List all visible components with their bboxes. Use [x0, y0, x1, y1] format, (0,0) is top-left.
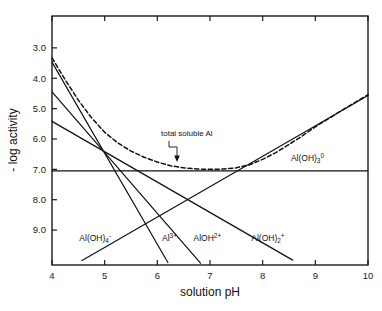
series-label-Al3: Al3+: [162, 232, 177, 243]
series-label-AlOH30: Al(OH)30: [291, 152, 325, 164]
x-tick-label: 6: [155, 270, 160, 281]
series-label-AlOH2: Al(OH)2+: [251, 232, 285, 244]
x-axis-title: solution pH: [180, 285, 240, 299]
y-tick-label: 7.0: [33, 164, 46, 175]
y-tick-label: 6.0: [33, 133, 46, 144]
chart-figure: 45678910 3.04.05.06.07.08.09.0 Al3+AlOH2…: [0, 0, 382, 311]
y-tick-label: 4.0: [33, 73, 46, 84]
series-label-base: AlOH: [194, 233, 214, 243]
speciation-chart: 45678910 3.04.05.06.07.08.09.0 Al3+AlOH2…: [0, 0, 382, 311]
series-label-superscript: -: [109, 232, 111, 239]
series-line-AlOH2: [52, 92, 201, 263]
plot-frame: [52, 16, 368, 265]
x-tick-label: 8: [260, 270, 265, 281]
series-label-base: Al(OH): [291, 153, 317, 163]
x-tick-label: 10: [363, 270, 374, 281]
y-tick-label: 5.0: [33, 103, 46, 114]
series-label-base: Al: [162, 233, 170, 243]
x-tick-label: 7: [207, 270, 212, 281]
series-label-base: Al(OH): [79, 233, 105, 243]
x-tick-label: 5: [102, 270, 107, 281]
y-tick-label: 8.0: [33, 194, 46, 205]
series-label-superscript: 2+: [214, 232, 222, 239]
x-axis-ticks: [52, 16, 368, 265]
annotation-arrow-icon: [169, 141, 177, 157]
total-soluble-al-label: total soluble Al: [161, 129, 213, 138]
y-tick-label: 9.0: [33, 224, 46, 235]
x-axis-tick-labels: 45678910: [49, 270, 373, 281]
y-axis-title: - log activity: [6, 108, 20, 171]
series-label-superscript: +: [281, 232, 285, 239]
y-axis-ticks: [52, 48, 57, 230]
series-label-superscript: 3+: [170, 232, 178, 239]
x-tick-label: 4: [49, 270, 54, 281]
series-label-base: Al(OH): [251, 233, 277, 243]
series-label-AlOH2: AlOH2+: [194, 232, 222, 243]
annotation-arrowhead-icon: [174, 156, 180, 162]
y-tick-label: 3.0: [33, 42, 46, 53]
total-soluble-al-annotation: total soluble Al: [161, 129, 213, 162]
series-label-superscript: 0: [320, 152, 324, 159]
x-tick-label: 9: [313, 270, 318, 281]
y-axis-tick-labels: 3.04.05.06.07.08.09.0: [33, 42, 46, 235]
series-label-AlOH4: Al(OH)4-: [79, 232, 111, 244]
